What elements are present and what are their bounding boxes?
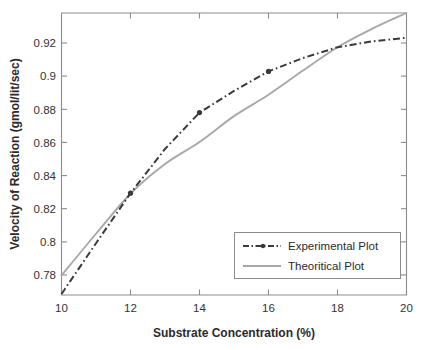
legend-label-theoritical: Theoritical Plot	[288, 260, 365, 272]
legend-marker-experimental-icon	[261, 244, 265, 248]
x-tick-label: 18	[331, 302, 344, 314]
y-tick-label: 0.86	[34, 137, 56, 149]
legend-label-experimental: Experimental Plot	[288, 240, 379, 252]
y-tick-label: 0.84	[34, 170, 57, 182]
y-tick-label: 0.82	[34, 203, 56, 215]
y-tick-label: 0.92	[34, 37, 56, 49]
x-axis-tick-labels: 10 12 14 16 18 20	[55, 302, 413, 314]
y-tick-label: 0.8	[40, 236, 56, 248]
series-marker-experimental	[128, 191, 133, 196]
y-tick-label: 0.9	[40, 70, 56, 82]
line-chart-canvas: 0.92 0.9 0.88 0.86 0.84 0.82 0.8 0.78 10…	[0, 0, 424, 350]
y-axis-tick-labels: 0.92 0.9 0.88 0.86 0.84 0.82 0.8 0.78	[34, 37, 57, 281]
y-tick-label: 0.88	[34, 104, 56, 116]
x-tick-label: 14	[193, 302, 206, 314]
x-tick-label: 10	[55, 302, 68, 314]
series-marker-experimental	[266, 69, 271, 74]
chart-figure: 0.92 0.9 0.88 0.86 0.84 0.82 0.8 0.78 10…	[0, 0, 424, 350]
x-axis-title: Substrate Concentration (%)	[153, 326, 315, 340]
y-axis-title: Velocity of Reaction (gmol/lit/sec)	[8, 58, 22, 249]
x-tick-label: 16	[262, 302, 275, 314]
series-marker-experimental	[197, 110, 202, 115]
chart-legend[interactable]: Experimental Plot Theoritical Plot	[235, 233, 401, 279]
x-tick-label: 20	[400, 302, 413, 314]
y-tick-label: 0.78	[34, 269, 56, 281]
x-tick-label: 12	[124, 302, 137, 314]
